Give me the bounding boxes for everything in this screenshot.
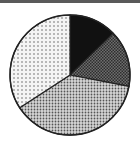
pie-chart (0, 0, 140, 146)
